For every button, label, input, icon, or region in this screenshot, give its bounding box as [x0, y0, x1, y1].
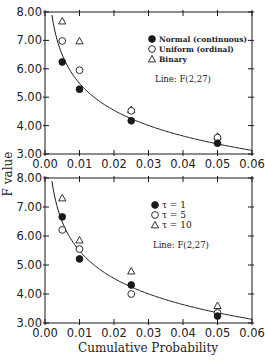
open-triangle-marker: [59, 17, 66, 23]
x-tick-label: 0.03: [136, 326, 162, 340]
x-tick-label: 0.01: [67, 157, 93, 171]
panel-top: 0.000.010.020.030.040.050.063.004.005.00…: [16, 5, 264, 171]
y-axis-title: F value: [1, 152, 15, 197]
open-circle-marker: [59, 38, 66, 45]
x-tick-label: 0.02: [101, 326, 127, 340]
open-triangle-marker: [214, 302, 221, 308]
filled-circle-marker: [59, 59, 66, 66]
x-tick-label: 0.06: [239, 157, 265, 171]
legend-entry: Binary: [159, 55, 187, 64]
open-triangle-marker: [76, 236, 83, 242]
y-tick-label: 6.00: [16, 62, 42, 76]
filled-circle-marker: [149, 36, 156, 43]
y-tick-label: 3.00: [16, 147, 42, 161]
open-circle-marker: [149, 46, 156, 53]
open-circle-marker: [128, 107, 135, 114]
panel-bottom: 0.000.010.020.030.040.050.063.004.005.00…: [16, 171, 264, 340]
filled-circle-marker: [214, 140, 221, 147]
y-tick-label: 3.00: [16, 316, 42, 330]
legend-entry: Normal (continuous): [159, 35, 247, 44]
chart-canvas: 0.000.010.020.030.040.050.063.004.005.00…: [0, 0, 265, 360]
line-note: Line: F(2,27): [153, 240, 209, 250]
open-triangle-marker: [76, 37, 83, 43]
y-tick-label: 7.00: [16, 200, 42, 214]
y-tick-label: 5.00: [16, 90, 42, 104]
legend-entry: τ = 5: [162, 210, 186, 220]
legend-entry: τ = 10: [162, 220, 192, 230]
filled-circle-marker: [128, 282, 135, 289]
filled-circle-marker: [76, 86, 83, 93]
y-tick-label: 8.00: [16, 171, 42, 185]
open-circle-marker: [76, 246, 83, 253]
filled-circle-marker: [152, 202, 159, 209]
open-triangle-marker: [148, 55, 155, 61]
plot-frame: [45, 12, 252, 154]
legend-entry: Uniform (ordinal): [159, 45, 234, 54]
line-note: Line: F(2,27): [155, 74, 211, 84]
open-circle-marker: [152, 212, 159, 219]
filled-circle-marker: [214, 313, 221, 320]
filled-circle-marker: [128, 117, 135, 124]
y-tick-label: 4.00: [16, 119, 42, 133]
open-triangle-marker: [128, 267, 135, 273]
x-tick-label: 0.05: [205, 157, 231, 171]
open-circle-marker: [76, 67, 83, 74]
legend: τ = 1τ = 5τ = 10: [151, 200, 192, 230]
x-tick-label: 0.05: [205, 326, 231, 340]
x-tick-label: 0.03: [136, 157, 162, 171]
open-triangle-marker: [59, 194, 66, 200]
legend: Normal (continuous)Uniform (ordinal)Bina…: [148, 35, 247, 64]
figure: 0.000.010.020.030.040.050.063.004.005.00…: [0, 0, 265, 360]
y-tick-label: 6.00: [16, 229, 42, 243]
y-tick-label: 7.00: [16, 33, 42, 47]
x-tick-label: 0.02: [101, 157, 127, 171]
y-tick-label: 8.00: [16, 5, 42, 19]
x-tick-label: 0.04: [170, 157, 196, 171]
open-circle-marker: [59, 227, 66, 234]
legend-entry: τ = 1: [162, 200, 186, 210]
x-tick-label: 0.04: [170, 326, 196, 340]
y-tick-label: 5.00: [16, 258, 42, 272]
filled-circle-marker: [59, 213, 66, 220]
open-circle-marker: [128, 291, 135, 298]
x-tick-label: 0.01: [67, 326, 93, 340]
x-tick-label: 0.06: [239, 326, 265, 340]
open-triangle-marker: [151, 221, 158, 227]
filled-circle-marker: [76, 256, 83, 263]
x-axis-title: Cumulative Probability: [78, 341, 218, 355]
y-tick-label: 4.00: [16, 287, 42, 301]
